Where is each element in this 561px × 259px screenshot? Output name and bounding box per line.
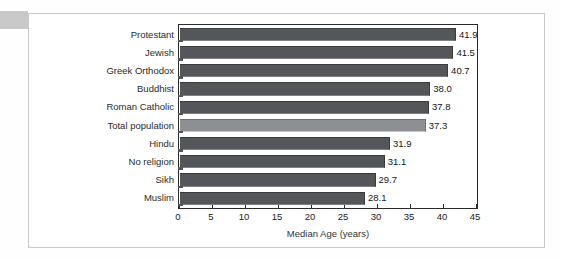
bar [180,192,365,205]
bar [180,155,385,168]
bar-base-stub [178,167,183,169]
bar-base-stub [178,58,183,60]
category-label: Muslim [0,189,174,207]
x-axis-tick-label: 45 [470,211,481,222]
bar-row: 37.3 [180,117,477,135]
bar [180,119,426,132]
category-label: Roman Catholic [0,98,174,116]
category-label: Total population [0,117,174,135]
category-label: Protestant [0,26,174,44]
category-label: No religion [0,153,174,171]
bar-chart: ProtestantJewishGreek OrthodoxBuddhistRo… [0,0,561,259]
bar-value-label: 31.1 [388,156,407,167]
bar-value-label: 41.5 [456,47,475,58]
bar-row: 38.0 [180,80,477,98]
x-axis-tick-label: 25 [338,211,349,222]
x-axis-title: Median Age (years) [178,228,478,239]
bar [180,28,457,41]
bar-value-label: 29.7 [379,174,398,185]
x-axis-tick-label: 35 [404,211,415,222]
x-axis-tick-label: 0 [175,211,180,222]
x-axis-tick-label: 10 [239,211,250,222]
bar-value-label: 40.7 [451,65,470,76]
category-label: Greek Orthodox [0,62,174,80]
bar [180,46,454,59]
bar-row: 31.1 [180,153,477,171]
bar-value-label: 38.0 [433,83,452,94]
bar [180,137,391,150]
bar-base-stub [178,40,183,42]
bar-row: 28.1 [180,189,477,207]
bar-row: 40.7 [180,62,477,80]
bar-value-label: 31.9 [393,138,412,149]
x-axis-tick-label: 40 [437,211,448,222]
bar-base-stub [178,204,183,206]
x-axis-tick-label: 20 [305,211,316,222]
bar-row: 41.9 [180,26,477,44]
bar-base-stub [178,149,183,151]
x-axis-tick-label: 15 [272,211,283,222]
bar-value-label: 37.8 [432,101,451,112]
bar [180,64,449,77]
bar-row: 41.5 [180,44,477,62]
bar-value-label: 28.1 [368,192,387,203]
bar-row: 31.9 [180,135,477,153]
bar [180,101,429,114]
category-axis-labels: ProtestantJewishGreek OrthodoxBuddhistRo… [0,26,174,208]
bar [180,173,376,186]
category-label: Sikh [0,171,174,189]
bar-value-label: 37.3 [429,120,448,131]
bar-base-stub [178,131,183,133]
bar-base-stub [178,113,183,115]
x-axis-tick-label: 5 [208,211,213,222]
bar-row: 29.7 [180,171,477,189]
category-label: Buddhist [0,80,174,98]
x-axis-tick-label: 30 [371,211,382,222]
bar-base-stub [178,76,183,78]
bars-container: 41.941.540.738.037.837.331.931.129.728.1 [180,26,477,208]
bar-base-stub [178,95,183,97]
category-label: Hindu [0,135,174,153]
bar-row: 37.8 [180,98,477,116]
bar [180,82,431,95]
bar-value-label: 41.9 [459,29,478,40]
bar-base-stub [178,186,183,188]
screenshot-page: ProtestantJewishGreek OrthodoxBuddhistRo… [0,0,561,259]
category-label: Jewish [0,44,174,62]
